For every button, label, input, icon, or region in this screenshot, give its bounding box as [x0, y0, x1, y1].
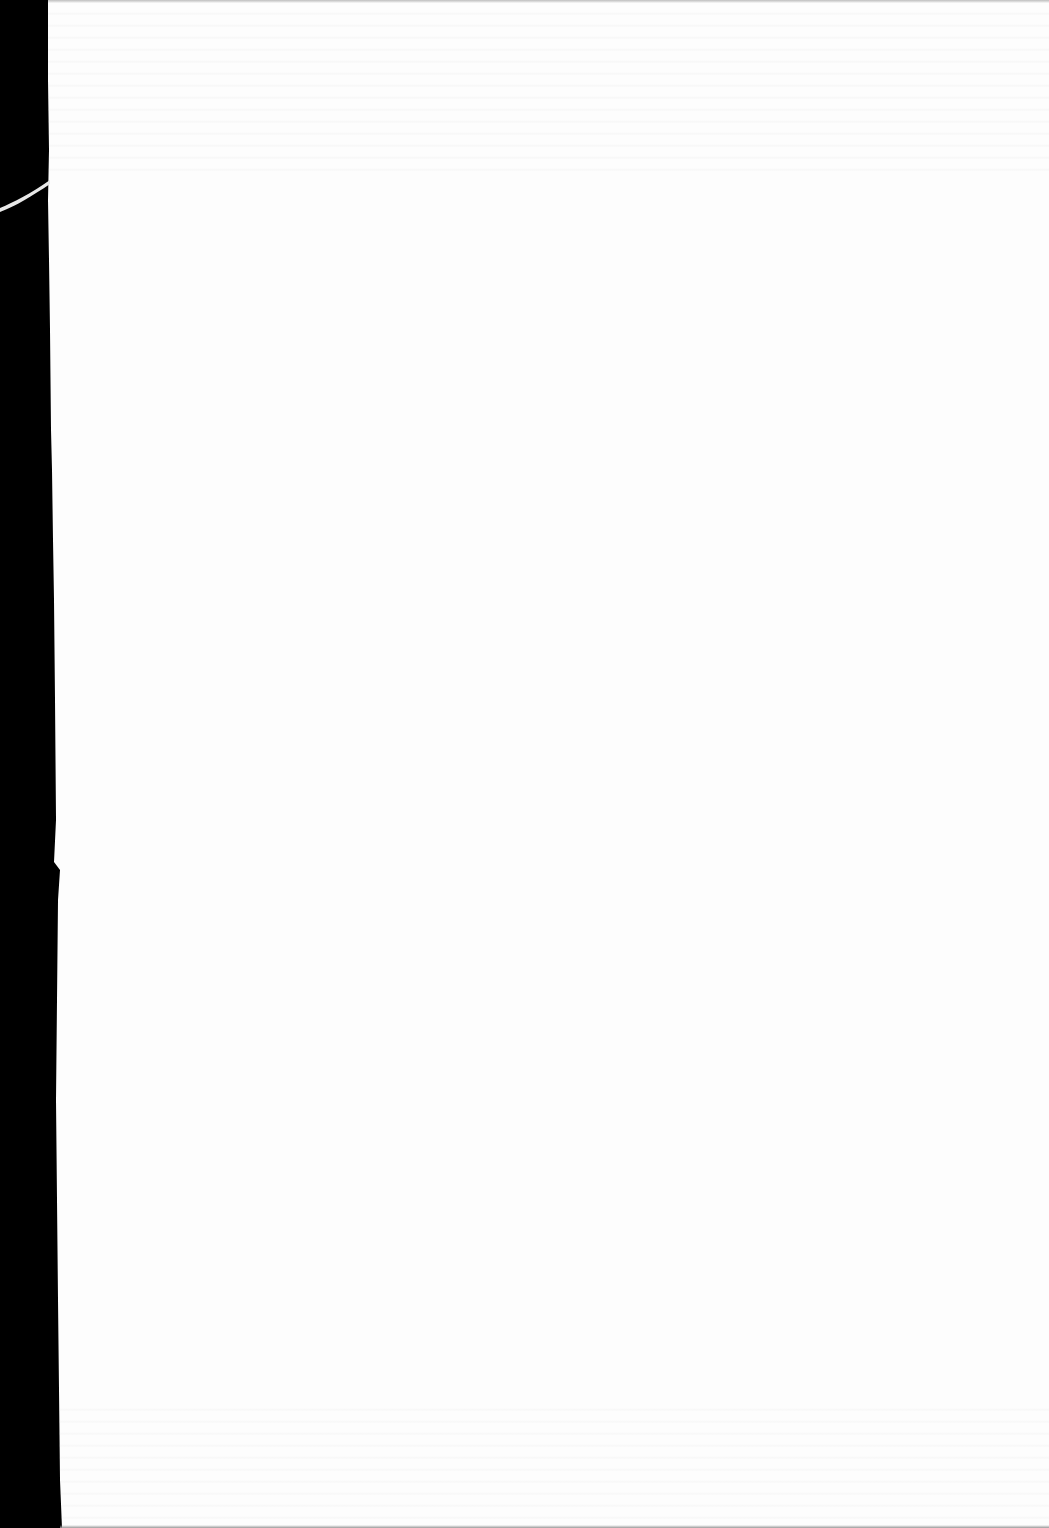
blank-paper-sheet: [48, 0, 1049, 1528]
scanned-document: [0, 0, 1049, 1528]
top-edge-shadow: [48, 0, 1049, 3]
paper-crease-highlight: [0, 178, 52, 214]
